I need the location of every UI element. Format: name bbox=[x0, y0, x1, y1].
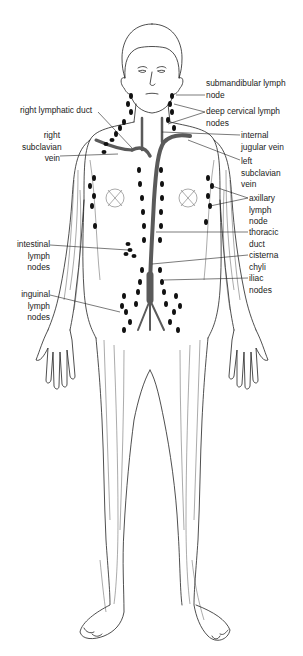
label-intestinal-lymph-nodes: intestinal lymph nodes bbox=[12, 239, 50, 274]
label-line: left bbox=[241, 156, 281, 168]
label-line: submandibular lymph bbox=[206, 78, 286, 90]
label-line: node bbox=[249, 216, 275, 228]
thoracic-duct-path bbox=[150, 135, 190, 290]
leader-left-subclavian bbox=[188, 140, 240, 160]
label-line: nodes bbox=[12, 312, 50, 324]
label-line: duct bbox=[249, 239, 278, 251]
label-line: internal bbox=[241, 130, 284, 142]
label-line: right lymphatic duct bbox=[20, 105, 92, 117]
label-line: lymph bbox=[12, 301, 50, 313]
leader-right-subclavian-vein bbox=[60, 154, 118, 156]
label-line: thoracic bbox=[249, 227, 278, 239]
label-line: iliac bbox=[249, 273, 272, 285]
label-line: axillary bbox=[249, 193, 275, 205]
label-line: vein bbox=[22, 153, 60, 165]
label-line: inguinal bbox=[12, 289, 50, 301]
label-line: nodes bbox=[206, 118, 280, 130]
label-thoracic-duct: thoracic duct bbox=[249, 227, 278, 250]
label-line: nodes bbox=[12, 262, 50, 274]
label-left-subclavian-vein: left subclavian vein bbox=[241, 156, 281, 191]
label-line: lymph bbox=[12, 251, 50, 263]
head-outline bbox=[121, 24, 183, 113]
label-line: nodes bbox=[249, 285, 272, 297]
leader-cisterna-chyli bbox=[152, 255, 248, 264]
leader-intestinal-lymph-nodes bbox=[50, 245, 128, 250]
label-line: chyli bbox=[249, 262, 278, 274]
label-line: node bbox=[206, 90, 286, 102]
label-right-subclavian-vein: right subclavian vein bbox=[22, 130, 60, 165]
label-submandibular-lymph-node: submandibular lymph node bbox=[206, 78, 286, 101]
label-line: subclavian bbox=[241, 168, 281, 180]
leader-deep-cervical bbox=[168, 104, 205, 124]
label-deep-cervical-lymph-nodes: deep cervical lymph nodes bbox=[206, 106, 280, 129]
label-line: jugular vein bbox=[241, 142, 284, 154]
label-line: deep cervical lymph bbox=[206, 106, 280, 118]
legs-outline bbox=[80, 338, 150, 639]
leader-iliac-nodes bbox=[164, 278, 248, 280]
label-axillary-lymph-node: axillary lymph node bbox=[249, 193, 275, 228]
label-line: subclavian bbox=[22, 142, 60, 154]
label-line: intestinal bbox=[12, 239, 50, 251]
label-right-lymphatic-duct: right lymphatic duct bbox=[20, 105, 92, 117]
lymphatic-system-diagram: right lymphatic duct right subclavian ve… bbox=[0, 0, 303, 656]
label-internal-jugular-vein: internal jugular vein bbox=[241, 130, 284, 153]
label-cisterna-chyli: cisterna chyli bbox=[249, 250, 278, 273]
label-line: right bbox=[22, 130, 60, 142]
label-line: lymph bbox=[249, 205, 275, 217]
label-iliac-nodes: iliac nodes bbox=[249, 273, 272, 296]
label-line: vein bbox=[241, 179, 281, 191]
label-line: cisterna bbox=[249, 250, 278, 262]
label-inguinal-lymph-nodes: inguinal lymph nodes bbox=[12, 289, 50, 324]
